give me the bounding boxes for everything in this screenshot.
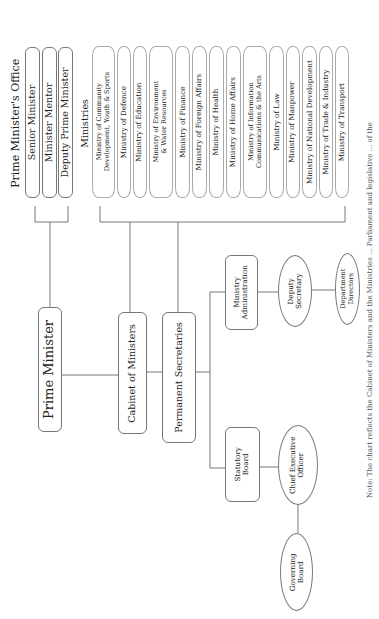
- ministry-environment: Ministry of Environment& Water Resources: [149, 46, 173, 198]
- ministry-administration-node: MinistryAdministration: [225, 255, 258, 330]
- ministry-manpower: Ministry of Manpower: [286, 46, 300, 198]
- ministry-defence: Ministry of Defence: [117, 46, 131, 198]
- ministry-finance: Ministry of Finance: [175, 46, 190, 198]
- ministry-law: Ministry of Law: [269, 46, 284, 198]
- department-directors-node: DepartmentDirectors: [335, 253, 360, 325]
- ministry-transport: Ministry of Transport: [335, 46, 349, 198]
- governing-board-node: GoverningBoard: [280, 533, 313, 611]
- ministry-trade-industry: Ministry of Trade & Industry: [319, 46, 333, 198]
- ministry-national-development: Ministry of National Development: [302, 46, 317, 198]
- chief-executive-officer-node: Chief ExecutiveOfficer: [278, 425, 318, 505]
- ministry-information-communications: Ministry of InformationCommunications & …: [243, 46, 267, 198]
- prime-minister-node: Prime Minister: [38, 307, 62, 432]
- permanent-secretaries-node: Permanent Secretaries: [162, 312, 196, 443]
- pmo-deputy-prime-minister: Deputy Prime Minister: [58, 47, 73, 198]
- ministry-health: Ministry of Health: [209, 46, 224, 198]
- footnote: Note: The chart reflects the Cabinet of …: [364, 0, 376, 619]
- ministry-foreign-affairs: Ministry of Foreign Affairs: [192, 46, 207, 198]
- ministries-title: Ministries: [78, 47, 92, 199]
- ministry-community-development: Ministry of CommunityDevelopment, Youth …: [92, 46, 115, 198]
- pmo-senior-minister: Senior Minister: [25, 47, 40, 198]
- cabinet-of-ministers-node: Cabinet of Ministers: [118, 312, 147, 434]
- deputy-secretary-node: DeputySecretary: [278, 255, 312, 327]
- ministry-education: Ministry of Education: [133, 46, 147, 198]
- ministry-home-affairs: Ministry of Home Affairs: [226, 46, 241, 198]
- pmo-title: Prime Minister's Office: [8, 47, 26, 199]
- pmo-minister-mentor: Minister Mentor: [42, 47, 57, 198]
- statutory-board-node: StatutoryBoard: [225, 427, 260, 502]
